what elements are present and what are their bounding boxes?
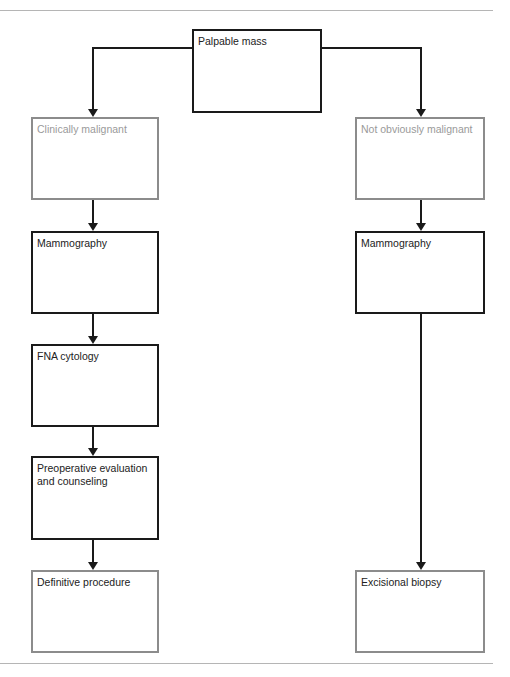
node-clinically-malignant: Clinically malignant bbox=[31, 117, 159, 200]
node-label: Definitive procedure bbox=[37, 576, 130, 588]
node-label: Clinically malignant bbox=[37, 123, 127, 135]
node-label: Preoperative evaluation and counseling bbox=[37, 462, 147, 487]
node-mammography-left: Mammography bbox=[31, 231, 159, 314]
node-label: Palpable mass bbox=[198, 35, 267, 47]
node-palpable-mass: Palpable mass bbox=[192, 29, 322, 113]
node-fna-cytology: FNA cytology bbox=[31, 344, 159, 427]
node-preoperative-evaluation: Preoperative evaluation and counseling bbox=[31, 456, 159, 540]
node-label: Mammography bbox=[37, 237, 107, 249]
node-mammography-right: Mammography bbox=[355, 231, 485, 314]
bottom-rule bbox=[0, 663, 493, 664]
node-label: Excisional biopsy bbox=[361, 576, 442, 588]
node-not-obviously-malignant: Not obviously malignant bbox=[355, 117, 485, 200]
node-label: FNA cytology bbox=[37, 350, 99, 362]
node-label: Not obviously malignant bbox=[361, 123, 472, 135]
node-definitive-procedure: Definitive procedure bbox=[31, 570, 159, 653]
node-label: Mammography bbox=[361, 237, 431, 249]
node-excisional-biopsy: Excisional biopsy bbox=[355, 570, 485, 653]
